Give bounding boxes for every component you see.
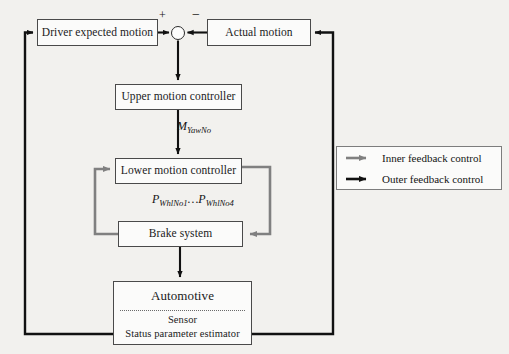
legend-label: Outer feedback control [382, 173, 483, 185]
signal-subscript-first: WhlNo1 [159, 198, 187, 208]
legend: Inner feedback control Outer feedback co… [336, 146, 502, 190]
block-brake-system: Brake system [118, 221, 243, 247]
signal-label-wheel-pressures: PWhlNo1…PWhlNo4 [152, 192, 234, 208]
block-upper-motion-controller: Upper motion controller [115, 84, 242, 110]
block-label: Upper motion controller [121, 90, 235, 103]
legend-label: Inner feedback control [382, 152, 482, 164]
control-block-diagram: Driver expected motion Actual motion + −… [0, 0, 509, 354]
signal-label-yaw-moment: MYawNo [177, 119, 211, 135]
black-arrow-icon [345, 173, 375, 185]
signal-subscript-second: WhlNo4 [206, 198, 234, 208]
signal-base: M [177, 119, 187, 133]
wire-outer-right-feedback [252, 33, 333, 335]
wire-outer-left-feedback [25, 33, 113, 335]
signal-base-second: P [198, 192, 205, 206]
signal-subscript: YawNo [187, 125, 211, 135]
legend-item-inner-feedback: Inner feedback control [337, 147, 501, 168]
automotive-title: Automotive [114, 282, 251, 310]
wire-lower-to-brake [242, 167, 270, 234]
plus-sign: + [159, 9, 166, 21]
minus-sign: − [192, 8, 200, 22]
block-label: Actual motion [225, 26, 292, 39]
block-actual-motion: Actual motion [207, 19, 311, 46]
automotive-sensor-label: Sensor [168, 313, 197, 326]
block-automotive: Automotive Sensor Status parameter estim… [113, 281, 252, 345]
block-lower-motion-controller: Lower motion controller [115, 158, 242, 184]
summing-junction [171, 26, 185, 40]
block-label: Driver expected motion [42, 26, 153, 39]
block-label: Brake system [149, 227, 212, 240]
automotive-subsystems: Sensor Status parameter estimator [114, 311, 251, 340]
signal-ellipsis: … [188, 192, 199, 206]
automotive-estimator-label: Status parameter estimator [125, 327, 240, 340]
legend-item-outer-feedback: Outer feedback control [337, 168, 501, 189]
block-label: Lower motion controller [121, 164, 236, 177]
block-driver-expected-motion: Driver expected motion [37, 19, 158, 46]
gray-arrow-icon [345, 152, 375, 164]
